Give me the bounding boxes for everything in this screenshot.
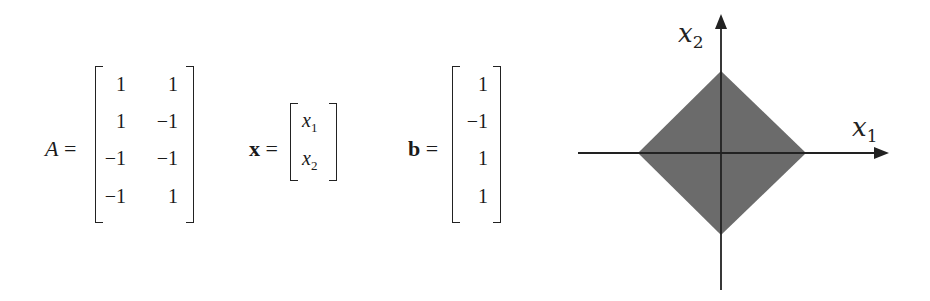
x1-axis-arrow-icon [874, 147, 889, 159]
x2-axis-arrow-icon [715, 14, 727, 29]
feasible-region-plot: x1 x2 [0, 0, 930, 301]
x2-axis-label: x2 [678, 18, 704, 52]
x1-axis-label: x1 [852, 112, 878, 146]
